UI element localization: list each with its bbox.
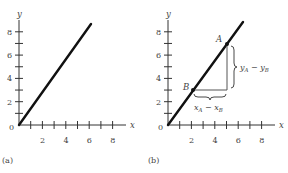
panel-caption: (a) (2, 156, 13, 165)
run-annotation: xA − xB (194, 103, 223, 113)
rise-annotation: yA − yB (239, 63, 269, 73)
y-tick-label: 2 (7, 98, 12, 107)
origin-label: 0 (9, 123, 14, 132)
x-tick-label: 8 (259, 136, 264, 145)
y-tick-label: 2 (156, 98, 161, 107)
point-b-label: B (182, 82, 189, 92)
y-tick-label: 4 (156, 74, 161, 83)
x-tick-label: 2 (40, 136, 45, 145)
rise-brace-icon (231, 46, 237, 88)
x-axis-label: x (130, 120, 135, 130)
x-axis-label: x (279, 120, 284, 130)
point-b (191, 88, 195, 92)
plotted-line (19, 24, 91, 125)
panel-caption: (b) (148, 156, 159, 165)
point-a-label: A (215, 34, 222, 44)
panel-b: y x 0 2 4 6 8 2 4 6 8 A B yA − yB xA − x… (148, 9, 284, 165)
x-tick-label: 4 (63, 136, 68, 145)
y-tick-label: 6 (7, 51, 12, 60)
x-tick-label: 4 (212, 136, 217, 145)
x-tick-label: 6 (87, 136, 92, 145)
point-a (225, 42, 229, 46)
y-tick-label: 4 (7, 74, 12, 83)
panel-a: y x 0 2 4 6 8 2 4 6 8 (a) (2, 9, 135, 165)
diagram-canvas: y x 0 2 4 6 8 2 4 6 8 (a) (0, 0, 288, 173)
run-brace-icon (194, 94, 226, 100)
y-axis-label: y (165, 9, 171, 19)
origin-label: 0 (158, 123, 163, 132)
y-axis-label: y (16, 9, 22, 19)
x-tick-label: 2 (189, 136, 194, 145)
y-tick-label: 8 (156, 28, 161, 37)
x-tick-label: 8 (110, 136, 115, 145)
x-tick-label: 6 (236, 136, 241, 145)
y-tick-label: 8 (7, 28, 12, 37)
y-tick-label: 6 (156, 51, 161, 60)
